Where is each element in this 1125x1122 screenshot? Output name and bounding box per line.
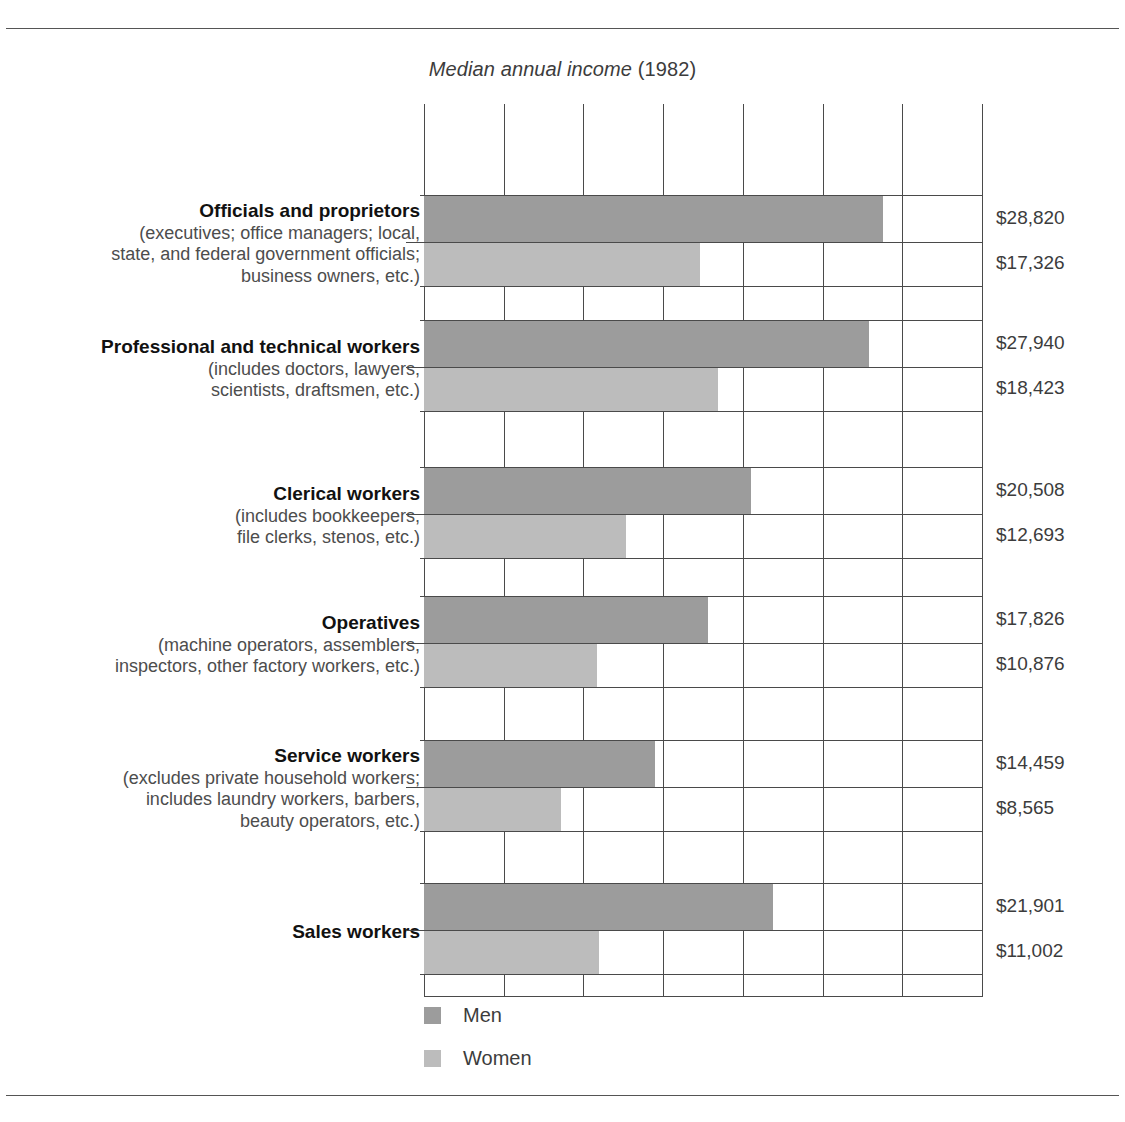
group-rule bbox=[420, 558, 982, 559]
bar-men bbox=[424, 467, 751, 514]
value-label-women: $17,326 bbox=[996, 252, 1065, 274]
group-rule bbox=[420, 367, 982, 368]
value-label-women: $10,876 bbox=[996, 653, 1065, 675]
group-rule bbox=[420, 643, 982, 644]
chart-page: Median annual income (1982) Officials an… bbox=[0, 0, 1125, 1122]
legend-item-women: Women bbox=[424, 1047, 532, 1070]
category-label-3: Clerical workers(includes bookkeepers,fi… bbox=[0, 483, 420, 549]
group-rule bbox=[420, 831, 982, 832]
legend-swatch-women-icon bbox=[424, 1050, 441, 1067]
category-label-5: Service workers(excludes private househo… bbox=[0, 745, 420, 833]
group-rule bbox=[420, 930, 982, 931]
group-rule bbox=[420, 596, 982, 597]
bottom-divider-rule bbox=[6, 1095, 1119, 1096]
group-rule bbox=[420, 514, 982, 515]
bar-men bbox=[424, 740, 655, 787]
category-label-4: Operatives(machine operators, assemblers… bbox=[0, 612, 420, 678]
group-rule bbox=[420, 195, 982, 196]
bar-women bbox=[424, 367, 718, 411]
category-description-line: scientists, draftsmen, etc.) bbox=[0, 380, 420, 402]
category-description-line: includes laundry workers, barbers, bbox=[0, 789, 420, 811]
category-name: Operatives bbox=[0, 612, 420, 635]
legend-label-men: Men bbox=[463, 1004, 502, 1027]
value-label-women: $18,423 bbox=[996, 377, 1065, 399]
category-description-line: (executives; office managers; local, bbox=[0, 223, 420, 245]
category-description-line: beauty operators, etc.) bbox=[0, 811, 420, 833]
category-description-line: (includes doctors, lawyers, bbox=[0, 359, 420, 381]
legend-item-men: Men bbox=[424, 1004, 532, 1027]
group-rule bbox=[420, 974, 982, 975]
bar-women bbox=[424, 787, 561, 831]
value-label-men: $28,820 bbox=[996, 207, 1065, 229]
category-name: Service workers bbox=[0, 745, 420, 768]
group-rule bbox=[420, 883, 982, 884]
bar-women bbox=[424, 242, 700, 286]
bar-women bbox=[424, 514, 626, 558]
legend-label-women: Women bbox=[463, 1047, 532, 1070]
bar-men bbox=[424, 320, 869, 367]
bar-women bbox=[424, 930, 599, 974]
category-label-1: Officials and proprietors(executives; of… bbox=[0, 200, 420, 288]
chart-title: Median annual income (1982) bbox=[0, 58, 1125, 81]
category-description-line: (machine operators, assemblers, bbox=[0, 635, 420, 657]
legend-swatch-men-icon bbox=[424, 1007, 441, 1024]
value-label-men: $14,459 bbox=[996, 752, 1065, 774]
group-rule bbox=[420, 320, 982, 321]
category-description-line: state, and federal government officials; bbox=[0, 244, 420, 266]
group-rule bbox=[420, 740, 982, 741]
category-description-line: inspectors, other factory workers, etc.) bbox=[0, 656, 420, 678]
group-rule bbox=[420, 467, 982, 468]
bar-men bbox=[424, 195, 883, 242]
bar-women bbox=[424, 643, 597, 687]
axis-baseline bbox=[424, 996, 982, 997]
group-rule bbox=[420, 687, 982, 688]
value-label-men: $27,940 bbox=[996, 332, 1065, 354]
chart-title-italic: Median annual income bbox=[429, 58, 632, 80]
group-rule bbox=[420, 411, 982, 412]
category-name: Officials and proprietors bbox=[0, 200, 420, 223]
gridline bbox=[902, 104, 903, 997]
category-label-2: Professional and technical workers(inclu… bbox=[0, 336, 420, 402]
category-description-line: (excludes private household workers; bbox=[0, 768, 420, 790]
value-label-men: $17,826 bbox=[996, 608, 1065, 630]
group-rule bbox=[420, 787, 982, 788]
chart-title-year: (1982) bbox=[638, 58, 696, 80]
group-rule bbox=[420, 242, 982, 243]
value-label-men: $21,901 bbox=[996, 895, 1065, 917]
category-name: Clerical workers bbox=[0, 483, 420, 506]
gridline bbox=[982, 104, 983, 997]
bar-men bbox=[424, 883, 773, 930]
chart-legend: Men Women bbox=[424, 1004, 532, 1090]
value-label-women: $11,002 bbox=[996, 940, 1063, 962]
category-name: Sales workers bbox=[0, 921, 420, 944]
plot-area bbox=[424, 104, 982, 997]
category-name: Professional and technical workers bbox=[0, 336, 420, 359]
bar-men bbox=[424, 596, 708, 643]
value-label-women: $12,693 bbox=[996, 524, 1065, 546]
value-label-men: $20,508 bbox=[996, 479, 1065, 501]
category-label-6: Sales workers bbox=[0, 921, 420, 944]
category-description-line: (includes bookkeepers, bbox=[0, 506, 420, 528]
value-label-women: $8,565 bbox=[996, 797, 1054, 819]
top-divider-rule bbox=[6, 28, 1119, 29]
category-description-line: business owners, etc.) bbox=[0, 266, 420, 288]
category-description-line: file clerks, stenos, etc.) bbox=[0, 527, 420, 549]
group-rule bbox=[420, 286, 982, 287]
